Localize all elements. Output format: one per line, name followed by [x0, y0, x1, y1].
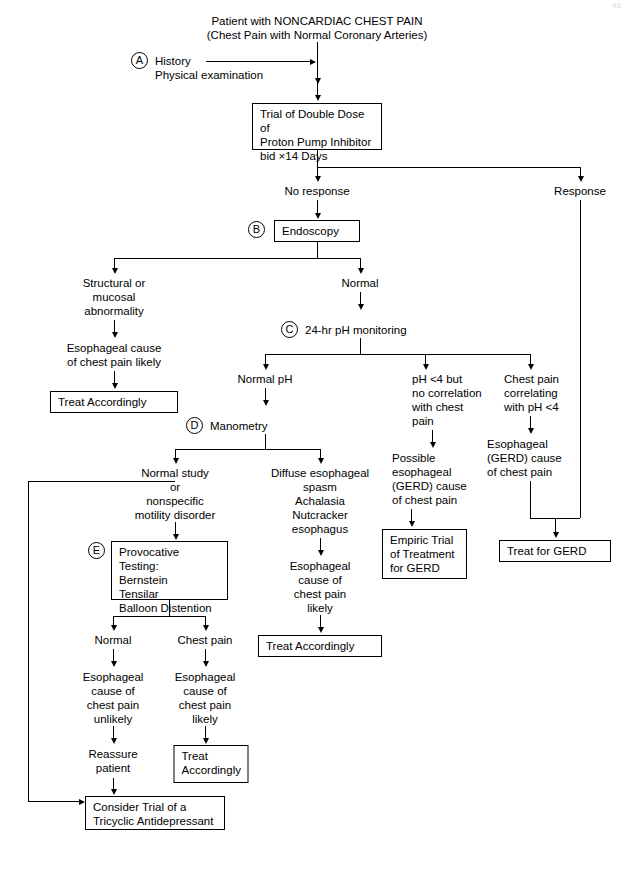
- connector-endoscopy-down: [317, 242, 318, 258]
- arrowhead-noresponse: [315, 176, 321, 182]
- arrowhead-phless4-possible: [430, 442, 436, 448]
- arrowhead-structural: [112, 268, 118, 274]
- connector-feedback-vertical: [28, 481, 29, 801]
- connector-manometry-down: [265, 434, 266, 449]
- node-treat-accordingly-prov: Treat Accordingly: [174, 745, 249, 783]
- node-tricyclic-antidepressant: Consider Trial of a Tricyclic Antidepres…: [85, 796, 225, 830]
- step-marker-e: E: [88, 542, 105, 559]
- arrowhead-spasm: [318, 458, 324, 464]
- connector-manometry-split: [175, 449, 320, 450]
- flowchart-canvas: 43 Patient with NONCARDIAC CHEST PAIN (C…: [0, 0, 634, 870]
- diagram-title-line2: (Chest Pain with Normal Coronary Arterie…: [117, 28, 517, 42]
- node-normal-study: Normal study or nonspecific motility dis…: [100, 466, 250, 522]
- node-history: History Physical examination: [155, 54, 305, 82]
- node-chest-pain-correlating: Chest pain correlating with pH <4: [504, 372, 614, 414]
- arrowhead-manometry: [263, 400, 269, 406]
- step-marker-b: B: [248, 221, 265, 238]
- node-prov-chest-pain: Chest pain: [155, 633, 255, 647]
- node-ppi-trial: Trial of Double Dose of Proton Pump Inhi…: [252, 103, 382, 150]
- arrowhead-to-ppi: [315, 95, 321, 101]
- node-structural-abnormality: Structural or mucosal abnormality: [44, 276, 184, 318]
- node-manometry: Manometry: [210, 419, 330, 433]
- page-number-mark: 43: [612, 1, 621, 10]
- step-marker-c: C: [281, 321, 298, 338]
- arrowhead-prov-chestpain: [203, 625, 209, 631]
- node-empiric-trial: Empiric Trial of Treatment for GERD: [382, 529, 467, 579]
- node-response: Response: [525, 184, 634, 198]
- connector-provocative-down: [169, 600, 170, 616]
- arrowhead-prov-normal: [111, 625, 117, 631]
- arrowhead-prov-pain-cause: [203, 661, 209, 667]
- connector-provocative-split: [113, 616, 205, 617]
- step-marker-d: D: [186, 417, 203, 434]
- node-esoph-cause-unlikely: Esophageal cause of chest pain unlikely: [63, 670, 163, 726]
- arrowhead-endoscopy: [315, 213, 321, 219]
- arrowhead-spasm-cause: [318, 550, 324, 556]
- connector-ppi-down: [317, 150, 318, 167]
- arrowhead-corr-gerd: [528, 428, 534, 434]
- node-esoph-cause-likely-prov: Esophageal cause of chest pain likely: [155, 670, 255, 726]
- node-treat-for-gerd: Treat for GERD: [499, 540, 611, 562]
- arrowhead-normalph: [263, 364, 269, 370]
- connector-endoscopy-split: [114, 258, 360, 259]
- node-ph-monitoring: 24-hr pH monitoring: [305, 323, 475, 337]
- arrowhead-history-right: [310, 59, 316, 65]
- node-esoph-cause-likely-mid: Esophageal cause of chest pain likely: [265, 559, 375, 615]
- arrowhead-normal-ph: [358, 304, 364, 310]
- arrowhead-chestpaincorr: [528, 364, 534, 370]
- node-no-response: No response: [257, 184, 377, 198]
- node-treat-accordingly-mid: Treat Accordingly: [258, 635, 382, 657]
- connector-phmon-down: [360, 338, 361, 354]
- connector-phmon-split: [265, 354, 530, 355]
- arrowhead-treatgerd: [553, 532, 559, 538]
- node-prov-normal: Normal: [63, 633, 163, 647]
- node-endoscopy: Endoscopy: [274, 220, 360, 242]
- connector-history-right: [206, 61, 311, 62]
- arrowhead-possible-empiric: [409, 521, 415, 527]
- arrowhead-to-reassure: [111, 738, 117, 744]
- node-normal-ph: Normal pH: [210, 372, 320, 386]
- connector-ppi-split: [317, 167, 580, 168]
- arrowhead-to-treat-left: [112, 383, 118, 389]
- node-esoph-gerd-cause: Esophageal (GERD) cause of chest pain: [487, 437, 607, 479]
- arrowhead-normal: [358, 268, 364, 274]
- arrowhead-to-provocative: [173, 534, 179, 540]
- arrowhead-to-treat-mid: [318, 627, 324, 633]
- step-marker-a: A: [131, 52, 148, 69]
- node-treat-accordingly-left: Treat Accordingly: [50, 391, 178, 413]
- arrowhead-to-treat-prov: [203, 738, 209, 744]
- node-normal: Normal: [305, 276, 415, 290]
- diagram-title-line1: Patient with NONCARDIAC CHEST PAIN: [117, 14, 517, 28]
- arrowhead-structural-cause: [112, 332, 118, 338]
- connector-feedback-top: [28, 481, 175, 482]
- arrowhead-phless4: [423, 364, 429, 370]
- node-reassure-patient: Reassure patient: [63, 747, 163, 775]
- arrowhead-prov-normal-cause: [111, 661, 117, 667]
- node-diffuse-spasm: Diffuse esophageal spasm Achalasia Nutcr…: [250, 466, 390, 536]
- node-provocative-testing: Provocative Testing: Bernstein Tensilar …: [111, 541, 228, 600]
- arrowhead-normalstudy: [173, 458, 179, 464]
- arrowhead-reassure-tricyclic: [111, 789, 117, 795]
- node-esoph-cause-likely-left: Esophageal cause of chest pain likely: [34, 341, 194, 369]
- connector-gerd-down: [530, 481, 531, 518]
- connector-to-ppi: [317, 61, 318, 98]
- connector-feedback-bottom: [28, 801, 80, 802]
- arrowhead-response: [578, 176, 584, 182]
